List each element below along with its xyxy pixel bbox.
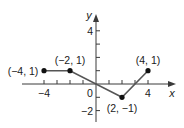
plot-area: −4044−2xy(−4, 1)(−2, 1)(2, −1)(4, 1) — [0, 0, 184, 128]
y-axis-label: y — [85, 9, 93, 21]
x-tick-label: −4 — [38, 87, 50, 99]
point-annotation: (−2, 1) — [55, 54, 86, 66]
data-point — [119, 95, 124, 100]
point-annotation: (2, −1) — [107, 102, 138, 114]
y-tick-label: −2 — [81, 105, 93, 117]
data-point — [145, 68, 150, 73]
data-point — [67, 68, 72, 73]
x-tick-label: 0 — [87, 87, 93, 99]
point-annotation: (−4, 1) — [8, 65, 39, 77]
data-point — [41, 68, 46, 73]
x-tick-label: 4 — [145, 87, 151, 99]
piecewise-line-graph: −4044−2xy(−4, 1)(−2, 1)(2, −1)(4, 1) — [0, 0, 184, 128]
point-annotation: (4, 1) — [136, 54, 161, 66]
x-axis-label: x — [168, 87, 175, 99]
y-tick-label: 4 — [87, 25, 93, 37]
y-axis-arrow-icon — [93, 14, 99, 22]
